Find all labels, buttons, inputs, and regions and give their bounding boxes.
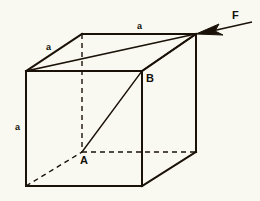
dimension-label-top-edge: a	[137, 22, 142, 31]
dimension-label-receding-edge: a	[46, 43, 51, 52]
force-arrow	[196, 22, 252, 35]
force-label-f: F	[232, 10, 239, 21]
hidden-edge-bottom-receding	[26, 152, 82, 186]
cube-force-diagram: a a a A B F	[0, 0, 260, 201]
point-label-b: B	[146, 73, 154, 84]
right-face-group	[142, 34, 196, 186]
hidden-edges-group	[26, 34, 196, 186]
cube-drawing-canvas	[0, 0, 260, 201]
point-label-a: A	[80, 155, 88, 166]
dimension-label-vertical-edge: a	[15, 123, 20, 132]
diagonals-group	[26, 34, 196, 152]
front-face-group	[26, 71, 142, 186]
edge-bottom-right-receding	[142, 152, 196, 186]
diagonal-A-to-B	[82, 71, 142, 152]
